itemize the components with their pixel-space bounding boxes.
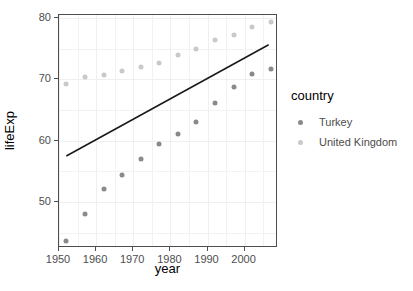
legend-title: country [291, 88, 411, 103]
y-tick-label: 70 [39, 72, 51, 84]
x-axis-title: year [58, 261, 277, 276]
x-tick-mark [169, 247, 170, 251]
regression-line-segment [66, 45, 268, 156]
y-axis-title: lifeExp [2, 14, 18, 247]
legend-label-united-kingdom: United Kingdom [319, 136, 397, 148]
plot-panel-wrapper: 50607080 195019601970198019902000 [58, 14, 277, 247]
y-tick-mark [54, 140, 58, 141]
y-tick-label: 50 [39, 195, 51, 207]
x-tick-mark [132, 247, 133, 251]
chart-figure: 50607080 195019601970198019902000 year l… [0, 0, 413, 291]
x-tick-mark [244, 247, 245, 251]
y-tick-mark [54, 201, 58, 202]
plot-panel [58, 14, 277, 247]
circle-icon [298, 120, 303, 125]
y-tick-label: 80 [39, 11, 51, 23]
legend-item-united-kingdom[interactable]: United Kingdom [291, 132, 411, 152]
circle-icon [298, 140, 303, 145]
legend-key-turkey [291, 113, 309, 131]
regression-line [59, 15, 276, 246]
x-tick-mark [207, 247, 208, 251]
y-tick-mark [54, 17, 58, 18]
y-tick-mark [54, 78, 58, 79]
legend-key-united-kingdom [291, 133, 309, 151]
legend-item-turkey[interactable]: Turkey [291, 112, 411, 132]
legend-label-turkey: Turkey [319, 116, 352, 128]
x-tick-mark [58, 247, 59, 251]
x-tick-mark [95, 247, 96, 251]
y-tick-label: 60 [39, 134, 51, 146]
legend: country Turkey United Kingdom [291, 88, 411, 152]
